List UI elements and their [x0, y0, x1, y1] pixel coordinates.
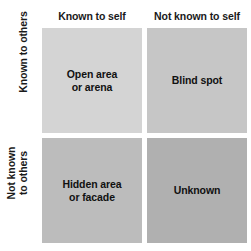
row-header-not-known-to-others: Not known to others	[4, 121, 30, 226]
column-header-not-known-to-self: Not known to self	[147, 9, 247, 24]
johari-window-diagram: Known to self Not known to self Known to…	[0, 0, 251, 251]
quadrant-blind-spot: Blind spot	[147, 28, 247, 133]
quadrant-unknown-label: Unknown	[174, 184, 221, 197]
quadrant-label-line: or arena	[67, 81, 117, 94]
row-header-line: Not known	[5, 147, 17, 200]
row-header-known-to-others-text: Known to others	[17, 11, 29, 92]
quadrant-label-line: Open area	[67, 68, 117, 81]
column-header-known-to-self: Known to self	[42, 9, 142, 24]
quadrant-unknown: Unknown	[147, 138, 247, 243]
quadrant-hidden-area-label: Hidden area or facade	[62, 178, 121, 204]
quadrant-open-area-label: Open area or arena	[67, 68, 117, 94]
row-header-not-known-to-others-text: Not known to others	[5, 147, 29, 200]
row-header-line: to others	[17, 147, 29, 200]
quadrant-hidden-area: Hidden area or facade	[42, 138, 142, 243]
quadrant-label-line: Hidden area	[62, 178, 121, 191]
quadrant-open-area: Open area or arena	[42, 28, 142, 133]
quadrant-label-line: Unknown	[174, 184, 221, 197]
row-header-known-to-others: Known to others	[16, 0, 30, 105]
quadrant-label-line: Blind spot	[172, 74, 222, 87]
row-header-line: Known to others	[17, 11, 29, 92]
quadrant-label-line: or facade	[62, 191, 121, 204]
quadrant-blind-spot-label: Blind spot	[172, 74, 222, 87]
